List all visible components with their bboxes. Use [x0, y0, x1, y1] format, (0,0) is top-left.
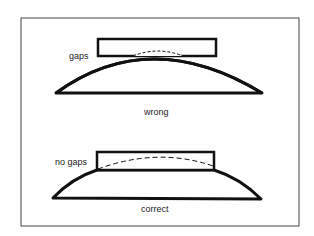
wrong-caption: wrong [144, 107, 169, 117]
diagram-canvas [0, 0, 314, 236]
lens-curved-body [53, 170, 261, 199]
correct-caption: correct [141, 204, 169, 214]
wrong-lens-diagram [56, 39, 262, 93]
lens-curved-body-outline [56, 59, 262, 93]
gaps-label: gaps [69, 51, 89, 61]
no-gaps-label: no gaps [55, 157, 87, 167]
